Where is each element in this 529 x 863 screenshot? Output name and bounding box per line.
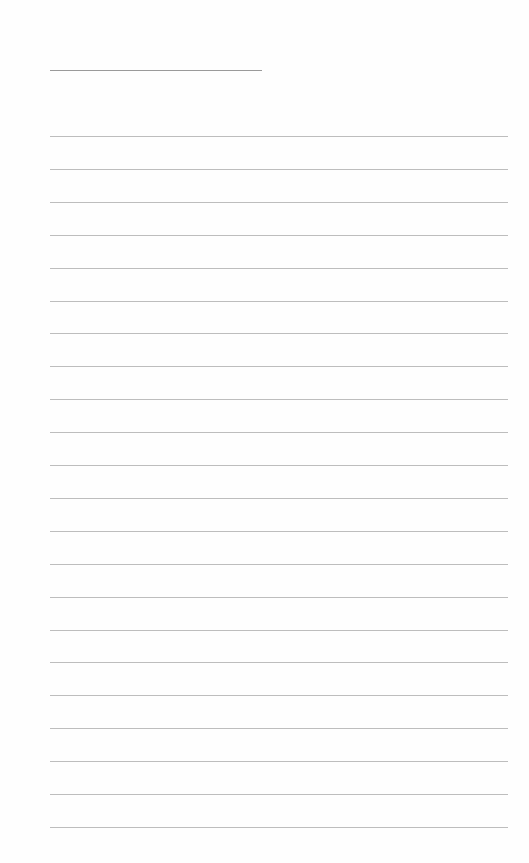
ruled-line xyxy=(50,465,508,466)
title-line xyxy=(50,70,262,71)
ruled-line xyxy=(50,366,508,367)
ruled-line xyxy=(50,761,508,762)
ruled-line xyxy=(50,564,508,565)
ruled-line xyxy=(50,728,508,729)
ruled-line xyxy=(50,301,508,302)
ruled-line xyxy=(50,597,508,598)
lined-page xyxy=(0,0,529,863)
ruled-line xyxy=(50,235,508,236)
ruled-line xyxy=(50,432,508,433)
ruled-line xyxy=(50,531,508,532)
ruled-line xyxy=(50,695,508,696)
ruled-line xyxy=(50,498,508,499)
ruled-line xyxy=(50,399,508,400)
ruled-line xyxy=(50,794,508,795)
ruled-line xyxy=(50,333,508,334)
ruled-line xyxy=(50,630,508,631)
ruled-line xyxy=(50,202,508,203)
ruled-line xyxy=(50,136,508,137)
ruled-line xyxy=(50,662,508,663)
ruled-line xyxy=(50,827,508,828)
ruled-line xyxy=(50,169,508,170)
ruled-line xyxy=(50,268,508,269)
